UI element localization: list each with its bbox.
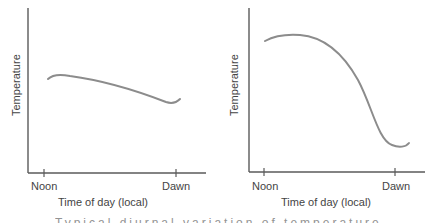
chart-panel-gradual-cooling: Temperature Noon Dawn Time of day (local… [0,0,216,223]
chart-panel-rapid-cooling: Temperature Noon Dawn Time of day (local… [216,0,432,223]
x-axis-label: Time of day (local) [218,196,432,208]
tick-label-dawn: Dawn [382,180,410,192]
y-axis-label: Temperature [10,56,22,116]
tick-label-noon: Noon [31,180,57,192]
caption-text: Typical diurnal variation of temperature… [0,214,432,223]
tick-label-dawn: Dawn [162,180,190,192]
figure-caption: Typical diurnal variation of temperature… [0,214,432,223]
x-axis-label: Time of day (local) [0,196,211,208]
tick-label-noon: Noon [252,180,278,192]
y-axis-label: Temperature [228,56,240,116]
temperature-curve [265,35,409,147]
temperature-curve [48,75,180,103]
